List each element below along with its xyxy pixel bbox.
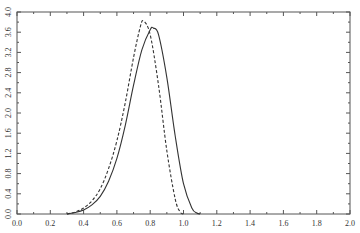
y-tick-label: 2.8 <box>4 68 13 78</box>
y-tick-label: 4.0 <box>4 7 13 17</box>
x-tick-label: 0.4 <box>79 219 89 228</box>
y-tick-label: 1.2 <box>4 148 13 158</box>
y-tick-label: 0.8 <box>4 169 13 179</box>
series-layer <box>67 21 200 214</box>
x-tick-label: 1.6 <box>278 219 288 228</box>
x-tick-label: 0.0 <box>12 219 22 228</box>
y-tick-label: 3.6 <box>4 27 13 37</box>
x-axis-ticks: 0.00.20.40.60.81.01.21.41.61.82.0 <box>12 12 355 228</box>
x-tick-label: 1.4 <box>245 219 255 228</box>
y-tick-label: 0.0 <box>4 209 13 219</box>
x-tick-label: 0.6 <box>112 219 122 228</box>
series-dashed-line <box>67 21 184 214</box>
line-chart: 0.00.20.40.60.81.01.21.41.61.82.0 0.00.4… <box>0 0 360 233</box>
y-tick-label: 0.4 <box>4 189 13 199</box>
y-tick-label: 2.4 <box>4 88 13 98</box>
y-tick-label: 2.0 <box>4 108 13 118</box>
y-tick-label: 3.2 <box>4 47 13 57</box>
x-tick-label: 0.2 <box>45 219 55 228</box>
y-tick-label: 1.6 <box>4 128 13 138</box>
x-tick-label: 2.0 <box>345 219 355 228</box>
y-axis-ticks: 0.00.40.81.21.62.02.42.83.23.64.0 <box>4 7 350 219</box>
x-tick-label: 1.8 <box>312 219 322 228</box>
x-tick-label: 1.0 <box>179 219 189 228</box>
x-tick-label: 1.2 <box>212 219 222 228</box>
x-tick-label: 0.8 <box>145 219 155 228</box>
